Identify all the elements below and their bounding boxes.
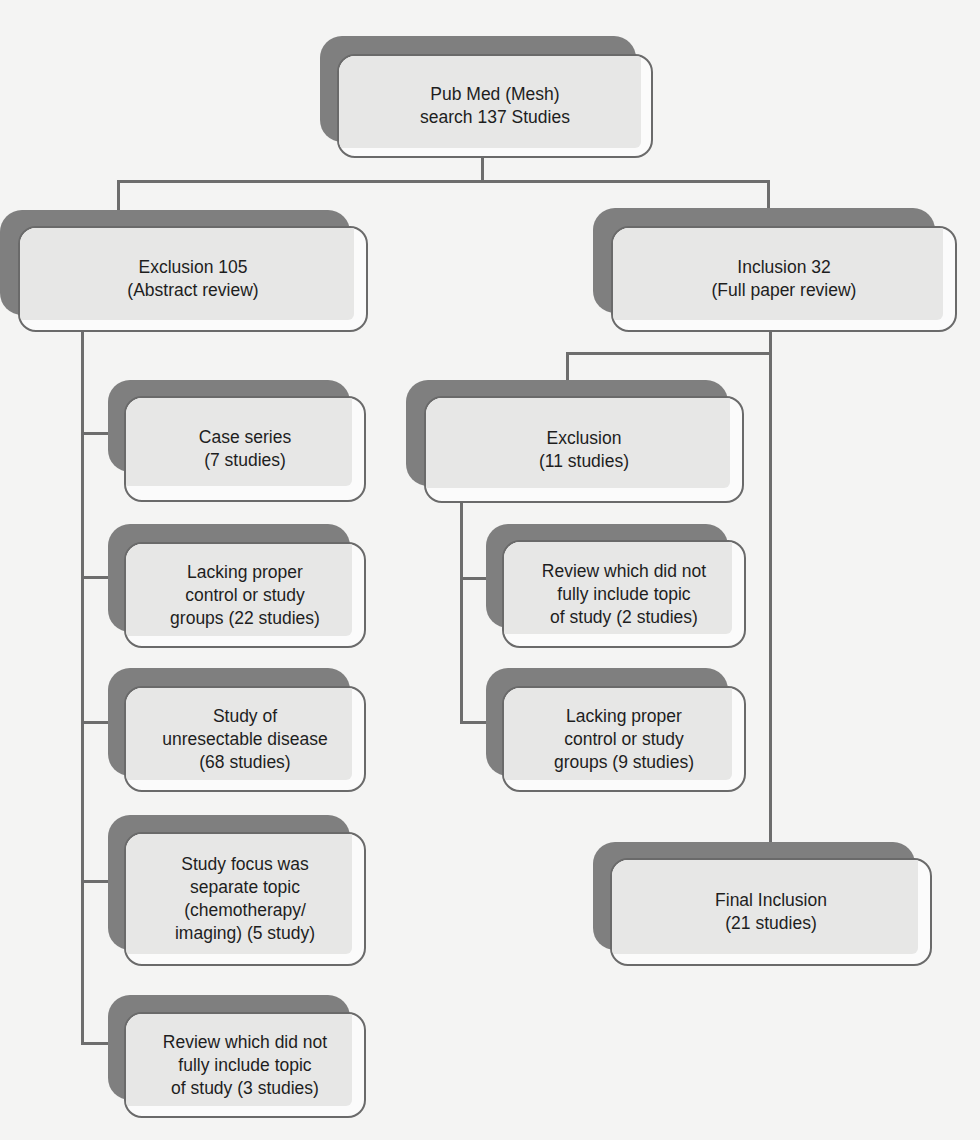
connector-to-lacking-9: [460, 721, 488, 724]
connector-to-exclusion-105: [117, 180, 120, 212]
node-box: Pub Med (Mesh) search 137 Studies: [337, 54, 653, 158]
node-box: Inclusion 32 (Full paper review): [611, 226, 957, 332]
node-box: Study focus was separate topic (chemothe…: [124, 832, 366, 966]
connector-exclusion-105-trunk: [81, 332, 84, 1044]
node-label: Exclusion 105 (Abstract review): [127, 256, 258, 302]
connector-to-exclusion-11: [566, 352, 772, 355]
connector-to-case-series: [81, 432, 111, 435]
connector-to-separate-topic: [81, 880, 111, 883]
node-box: Review which did not fully include topic…: [124, 1012, 366, 1118]
node-box: Study of unresectable disease (68 studie…: [124, 686, 366, 792]
connector-to-review-3: [81, 1042, 111, 1045]
node-box: Lacking proper control or study groups (…: [124, 542, 366, 648]
node-box: Review which did not fully include topic…: [502, 540, 746, 648]
connector-to-lacking-22: [81, 576, 111, 579]
connector-search-down: [481, 158, 484, 182]
connector-to-inclusion-32: [767, 180, 770, 210]
connector-split-bar: [117, 180, 769, 183]
node-label: Review which did not fully include topic…: [542, 560, 706, 629]
node-label: Lacking proper control or study groups (…: [170, 561, 320, 630]
connector-to-review-2: [460, 577, 488, 580]
node-label: Final Inclusion (21 studies): [715, 889, 827, 935]
node-label: Inclusion 32 (Full paper review): [712, 256, 857, 302]
node-label: Study of unresectable disease (68 studie…: [162, 705, 327, 774]
connector-inclusion-32-trunk: [769, 332, 772, 844]
connector-to-unresectable: [81, 721, 111, 724]
node-label: Lacking proper control or study groups (…: [554, 705, 694, 774]
node-label: Case series (7 studies): [199, 426, 291, 472]
node-box: Exclusion 105 (Abstract review): [18, 226, 368, 332]
node-box: Final Inclusion (21 studies): [610, 858, 932, 966]
flowchart-canvas: Pub Med (Mesh) search 137 Studies Exclus…: [0, 0, 980, 1140]
node-label: Study focus was separate topic (chemothe…: [175, 853, 315, 945]
connector-exclusion-11-up: [566, 352, 569, 382]
node-label: Pub Med (Mesh) search 137 Studies: [420, 83, 570, 129]
node-box: Lacking proper control or study groups (…: [502, 686, 746, 792]
node-box: Case series (7 studies): [124, 396, 366, 502]
node-box: Exclusion (11 studies): [424, 396, 744, 503]
connector-exclusion-11-trunk: [460, 503, 463, 723]
node-label: Review which did not fully include topic…: [163, 1031, 327, 1100]
node-label: Exclusion (11 studies): [539, 427, 629, 473]
